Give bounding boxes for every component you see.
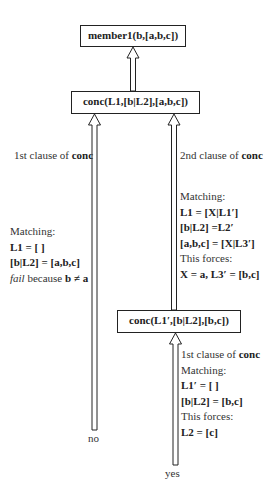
fail-text: because xyxy=(25,272,65,284)
right-branch-title: 2nd clause of conc xyxy=(180,148,263,164)
fail-bold: b ≠ a xyxy=(65,272,88,284)
forces-label: This forces: xyxy=(180,251,260,267)
bottom-result-yes: yes xyxy=(165,466,180,482)
label-text: 1st clause of xyxy=(14,149,72,161)
left-result-no: no xyxy=(88,431,99,447)
equation: X = a, L3′ = [b,c] xyxy=(180,267,260,283)
node-member1: member1(b,[a,b,c]) xyxy=(80,25,186,47)
node-conc-2: conc(L1′,[b|L2],[b,c]) xyxy=(117,310,241,333)
fail-reason: fail because b ≠ a xyxy=(10,271,88,287)
equation: [a,b,c] = [X|L3′] xyxy=(180,236,260,252)
left-branch-title: 1st clause of conc xyxy=(14,148,93,164)
equation: L2 = [c] xyxy=(181,425,260,441)
arrow-conc1-to-root xyxy=(127,47,139,91)
forces-label: This forces: xyxy=(181,409,260,425)
fail-italic: fail xyxy=(10,272,25,284)
left-branch-matching: Matching: L1 = [ ] [b|L2] = [a,b,c] fail… xyxy=(10,224,88,286)
label-text: 1st clause of xyxy=(181,348,239,360)
equation: [b|L2] =L2′ xyxy=(180,220,260,236)
arrow-right-branch xyxy=(168,114,180,310)
equation: L1′ = [ ] xyxy=(181,378,260,394)
matching-label: Matching: xyxy=(180,189,260,205)
node-conc-1: conc(L1,[b|L2],[a,b,c]) xyxy=(71,91,200,114)
equation: L1 = [X|L1′] xyxy=(180,205,260,221)
label-bold: conc xyxy=(72,149,93,161)
bottom-branch-title: 1st clause of conc xyxy=(181,347,260,363)
label-bold: conc xyxy=(241,149,262,161)
matching-label: Matching: xyxy=(181,363,260,379)
arrow-bottom-branch xyxy=(170,333,182,465)
label-text: 2nd clause of xyxy=(180,149,241,161)
equation: L1 = [ ] xyxy=(10,240,88,256)
bottom-branch-matching: 1st clause of conc Matching: L1′ = [ ] [… xyxy=(181,347,260,440)
label-bold: conc xyxy=(239,348,260,360)
equation: [b|L2] = [b,c] xyxy=(181,394,260,410)
right-branch-matching: Matching: L1 = [X|L1′] [b|L2] =L2′ [a,b,… xyxy=(180,189,260,282)
equation: [b|L2] = [a,b,c] xyxy=(10,255,88,271)
matching-label: Matching: xyxy=(10,224,88,240)
